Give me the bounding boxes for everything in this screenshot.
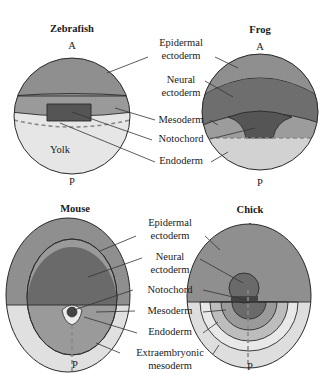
anterior-label: A [68,40,76,51]
label-endoderm: Endoderm [159,155,203,166]
posterior-label: P [247,361,253,372]
panel-title: Mouse [60,203,90,214]
epidermal-ectoderm-region [0,50,150,96]
panel-mouse: Mouse A P [0,203,140,374]
notochord-region [231,296,258,302]
label-extraembryonic-mesoderm-line1: Extraembryonic [136,347,204,358]
label-mesoderm: Mesoderm [148,305,193,316]
anterior-label: A [256,41,264,52]
panel-title: Frog [249,24,271,35]
panel-zebrafish: Zebrafish A Yolk P [0,23,150,187]
germ-layer-diagram: Zebrafish A Yolk P Frog A P Epidermal [0,0,335,374]
label-epidermal-ectoderm-line2: ectoderm [161,50,200,61]
leader-line [107,57,148,73]
label-epidermal-ectoderm-line1: Epidermal [148,217,192,228]
notochord-region [67,307,77,317]
label-neural-ectoderm-line2: ectoderm [161,87,200,98]
label-epidermal-ectoderm-line1: Epidermal [159,37,203,48]
label-epidermal-ectoderm-line2: ectoderm [150,230,189,241]
label-neural-ectoderm-line2: ectoderm [150,264,189,275]
panel-title: Zebrafish [50,23,94,34]
label-notochord: Notochord [159,133,205,144]
label-neural-ectoderm-line1: Neural [156,251,185,262]
frog-embryo [195,50,325,180]
panel-title: Chick [237,204,264,215]
label-endoderm: Endoderm [148,326,192,337]
label-extraembryonic-mesoderm-line2: mesoderm [148,360,192,371]
label-notochord: Notochord [148,284,194,295]
panel-frog: Frog A P [195,24,325,188]
posterior-label: P [69,176,75,187]
label-neural-ectoderm-line1: Neural [167,74,196,85]
yolk-label: Yolk [50,144,71,155]
zebrafish-embryo [0,50,150,180]
notochord-region [47,104,91,121]
posterior-label: P [257,177,263,188]
posterior-label: P [72,359,78,370]
label-mesoderm: Mesoderm [159,114,204,125]
